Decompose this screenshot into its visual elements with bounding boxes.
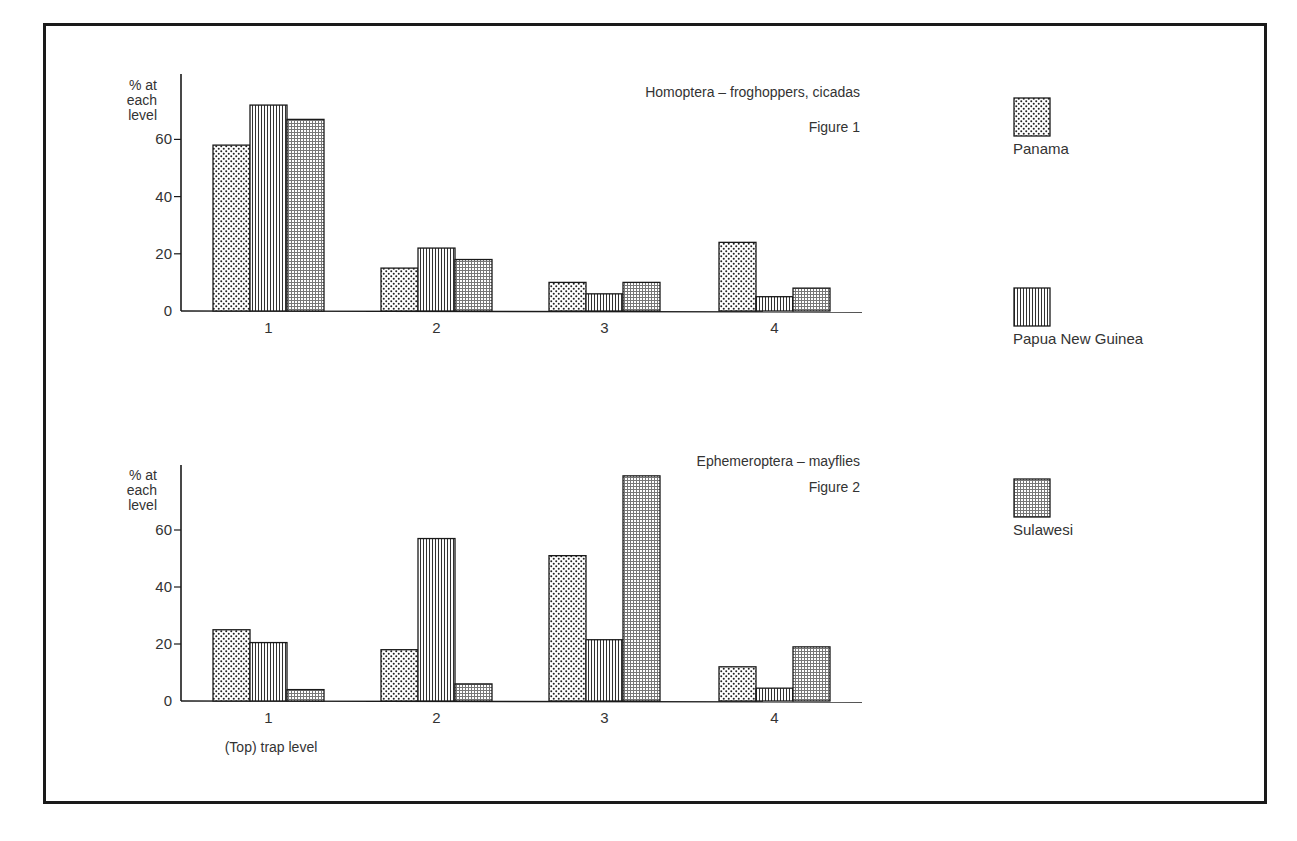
y-tick-label: 40 xyxy=(155,188,172,205)
x-tick-label: 3 xyxy=(600,709,608,726)
y-tick-label: 60 xyxy=(155,521,172,538)
bar-papua-new-guinea xyxy=(756,297,793,311)
y-axis-label-line3: level xyxy=(128,497,157,513)
figure-2-chart: % at each level Ephemeroptera – mayflies… xyxy=(127,453,862,755)
legend-item-panama: Panama xyxy=(1013,98,1070,157)
legend: PanamaPapua New GuineaSulawesi xyxy=(1013,98,1144,538)
bar-papua-new-guinea xyxy=(418,248,455,311)
bar-papua-new-guinea xyxy=(250,643,287,701)
legend-item-sulawesi: Sulawesi xyxy=(1013,479,1073,538)
y-tick-label: 0 xyxy=(164,302,172,319)
bar-sulawesi xyxy=(455,684,492,701)
bar-sulawesi xyxy=(623,282,660,311)
bar-sulawesi xyxy=(455,260,492,311)
legend-label: Papua New Guinea xyxy=(1013,330,1144,347)
bar-sulawesi xyxy=(287,690,324,701)
y-axis-label-line1: % at xyxy=(129,467,157,483)
chart-canvas: % at each level Homoptera – froghoppers,… xyxy=(0,0,1297,841)
figure-label: Figure 1 xyxy=(809,119,861,135)
legend-swatch xyxy=(1014,288,1050,326)
bar-panama xyxy=(213,145,250,311)
bar-papua-new-guinea xyxy=(418,539,455,701)
bar-papua-new-guinea xyxy=(250,105,287,311)
bar-panama xyxy=(549,556,586,701)
x-tick-label: 4 xyxy=(770,709,778,726)
bar-panama xyxy=(213,630,250,701)
bar-sulawesi xyxy=(623,476,660,701)
chart-title: Homoptera – froghoppers, cicadas xyxy=(645,84,860,100)
bar-papua-new-guinea xyxy=(586,294,623,311)
legend-label: Panama xyxy=(1013,140,1070,157)
bars xyxy=(213,476,830,701)
figure-label: Figure 2 xyxy=(809,479,861,495)
x-tick-label: 1 xyxy=(264,319,272,336)
legend-item-papua-new-guinea: Papua New Guinea xyxy=(1013,288,1144,347)
y-axis-label-line3: level xyxy=(128,107,157,123)
bar-panama xyxy=(381,650,418,701)
bar-sulawesi xyxy=(793,647,830,701)
x-tick-label: 3 xyxy=(600,319,608,336)
figure-1-chart: % at each level Homoptera – froghoppers,… xyxy=(127,74,862,336)
bar-panama xyxy=(549,282,586,311)
legend-label: Sulawesi xyxy=(1013,521,1073,538)
bars xyxy=(213,105,830,311)
y-tick-label: 60 xyxy=(155,130,172,147)
bar-panama xyxy=(381,268,418,311)
y-tick-label: 0 xyxy=(164,692,172,709)
bar-sulawesi xyxy=(287,119,324,311)
bar-papua-new-guinea xyxy=(586,640,623,701)
x-tick-label: 2 xyxy=(432,709,440,726)
y-tick-label: 40 xyxy=(155,578,172,595)
bar-papua-new-guinea xyxy=(756,688,793,701)
legend-swatch xyxy=(1014,98,1050,136)
bar-panama xyxy=(719,667,756,701)
x-tick-label: 1 xyxy=(264,709,272,726)
y-axis-label-line1: % at xyxy=(129,77,157,93)
bar-panama xyxy=(719,242,756,311)
bar-sulawesi xyxy=(793,288,830,311)
y-tick-label: 20 xyxy=(155,635,172,652)
x-tick-label: 2 xyxy=(432,319,440,336)
x-axis-label: (Top) trap level xyxy=(225,739,318,755)
y-tick-label: 20 xyxy=(155,245,172,262)
y-axis-label-line2: each xyxy=(127,92,157,108)
chart-title: Ephemeroptera – mayflies xyxy=(697,453,860,469)
y-axis-label-line2: each xyxy=(127,482,157,498)
x-tick-label: 4 xyxy=(770,319,778,336)
legend-swatch xyxy=(1014,479,1050,517)
